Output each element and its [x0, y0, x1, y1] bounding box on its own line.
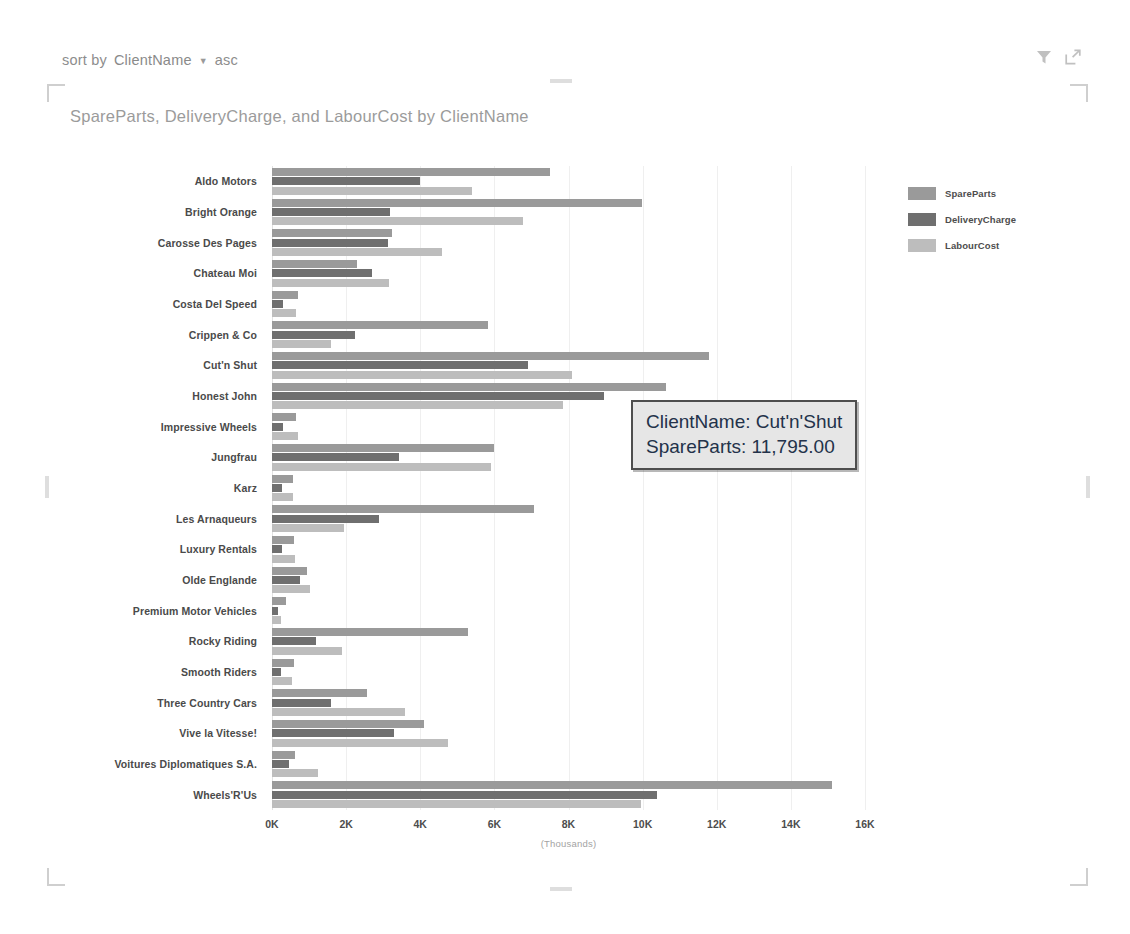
resize-handle-left[interactable]: [45, 476, 49, 498]
bar-spareparts[interactable]: [272, 628, 468, 636]
bar-spareparts[interactable]: [272, 413, 296, 421]
focus-mode-icon[interactable]: [1064, 48, 1082, 66]
frame-corner-bottom-left: [47, 868, 65, 886]
y-axis-category-label[interactable]: Honest John: [192, 390, 257, 402]
y-axis-category-label[interactable]: Jungfrau: [211, 451, 257, 463]
bar-labourcost[interactable]: [272, 493, 293, 501]
bar-spareparts[interactable]: [272, 199, 642, 207]
bar-deliverycharge[interactable]: [272, 239, 388, 247]
x-axis-labels: 0K2K4K6K8K10K12K14K16K: [272, 818, 865, 836]
bar-deliverycharge[interactable]: [272, 392, 604, 400]
bar-deliverycharge[interactable]: [272, 208, 390, 216]
resize-handle-bottom[interactable]: [550, 887, 572, 891]
y-axis-category-label[interactable]: Luxury Rentals: [180, 543, 257, 555]
bar-labourcost[interactable]: [272, 647, 342, 655]
bar-deliverycharge[interactable]: [272, 177, 420, 185]
bar-spareparts[interactable]: [272, 444, 494, 452]
bar-deliverycharge[interactable]: [272, 331, 355, 339]
bar-deliverycharge[interactable]: [272, 515, 379, 523]
bar-labourcost[interactable]: [272, 432, 298, 440]
bar-labourcost[interactable]: [272, 708, 405, 716]
bar-deliverycharge[interactable]: [272, 545, 282, 553]
y-axis-category-label[interactable]: Wheels'R'Us: [193, 789, 257, 801]
bar-labourcost[interactable]: [272, 309, 296, 317]
bar-deliverycharge[interactable]: [272, 269, 372, 277]
bar-deliverycharge[interactable]: [272, 791, 657, 799]
bar-deliverycharge[interactable]: [272, 760, 289, 768]
bar-labourcost[interactable]: [272, 616, 281, 624]
bar-labourcost[interactable]: [272, 248, 442, 256]
bar-labourcost[interactable]: [272, 677, 292, 685]
bar-spareparts[interactable]: [272, 659, 294, 667]
bar-deliverycharge[interactable]: [272, 699, 331, 707]
bar-deliverycharge[interactable]: [272, 576, 300, 584]
sort-by-field[interactable]: ClientName: [114, 52, 192, 68]
y-axis-category-label[interactable]: Chateau Moi: [193, 267, 257, 279]
resize-handle-right[interactable]: [1086, 476, 1090, 498]
bar-spareparts[interactable]: [272, 751, 295, 759]
bar-labourcost[interactable]: [272, 401, 563, 409]
bar-spareparts[interactable]: [272, 689, 367, 697]
bar-spareparts[interactable]: [272, 536, 294, 544]
bar-deliverycharge[interactable]: [272, 484, 282, 492]
y-axis-category-label[interactable]: Rocky Riding: [189, 635, 257, 647]
bar-labourcost[interactable]: [272, 739, 448, 747]
bar-labourcost[interactable]: [272, 187, 472, 195]
sort-by-bar[interactable]: sort by ClientName ▼ asc: [62, 52, 238, 68]
filter-icon[interactable]: [1035, 48, 1053, 66]
bar-deliverycharge[interactable]: [272, 668, 281, 676]
bar-spareparts[interactable]: [272, 720, 424, 728]
y-axis-category-label[interactable]: Smooth Riders: [181, 666, 257, 678]
bar-spareparts[interactable]: [272, 291, 298, 299]
bar-deliverycharge[interactable]: [272, 423, 283, 431]
y-axis-category-label[interactable]: Vive la Vitesse!: [179, 727, 257, 739]
y-axis-category-label[interactable]: Premium Motor Vehicles: [133, 605, 257, 617]
bar-deliverycharge[interactable]: [272, 607, 278, 615]
legend-item[interactable]: SpareParts: [908, 180, 1088, 206]
bar-labourcost[interactable]: [272, 217, 523, 225]
bar-deliverycharge[interactable]: [272, 453, 399, 461]
y-axis-category-label[interactable]: Three Country Cars: [157, 697, 257, 709]
bar-spareparts[interactable]: [272, 352, 709, 360]
y-axis-category-label[interactable]: Carosse Des Pages: [158, 237, 257, 249]
bar-spareparts[interactable]: [272, 567, 307, 575]
bar-deliverycharge[interactable]: [272, 300, 283, 308]
bar-spareparts[interactable]: [272, 321, 488, 329]
y-axis-category-label[interactable]: Aldo Motors: [195, 175, 257, 187]
bar-spareparts[interactable]: [272, 505, 534, 513]
sort-direction[interactable]: asc: [215, 52, 238, 68]
bar-labourcost[interactable]: [272, 463, 491, 471]
legend-item[interactable]: DeliveryCharge: [908, 206, 1088, 232]
bar-spareparts[interactable]: [272, 229, 392, 237]
y-axis-category-label[interactable]: Cut'n Shut: [203, 359, 257, 371]
y-axis-category-label[interactable]: Bright Orange: [185, 206, 257, 218]
legend-item[interactable]: LabourCost: [908, 232, 1088, 258]
bar-spareparts[interactable]: [272, 260, 357, 268]
bar-spareparts[interactable]: [272, 475, 293, 483]
bar-labourcost[interactable]: [272, 769, 318, 777]
bar-spareparts[interactable]: [272, 597, 286, 605]
bar-labourcost[interactable]: [272, 340, 331, 348]
y-axis-category-label[interactable]: Olde Englande: [182, 574, 257, 586]
resize-handle-top[interactable]: [550, 79, 572, 83]
bar-labourcost[interactable]: [272, 555, 295, 563]
bar-spareparts[interactable]: [272, 168, 550, 176]
bar-spareparts[interactable]: [272, 383, 666, 391]
y-axis-category-label[interactable]: Les Arnaqueurs: [176, 513, 257, 525]
bar-spareparts[interactable]: [272, 781, 832, 789]
bar-labourcost[interactable]: [272, 524, 344, 532]
bar-labourcost[interactable]: [272, 279, 389, 287]
y-axis-category-label[interactable]: Karz: [234, 482, 257, 494]
bar-deliverycharge[interactable]: [272, 729, 394, 737]
bar-deliverycharge[interactable]: [272, 637, 316, 645]
bar-labourcost[interactable]: [272, 800, 641, 808]
y-axis-category-label[interactable]: Voitures Diplomatiques S.A.: [114, 758, 257, 770]
y-axis-category-label[interactable]: Costa Del Speed: [173, 298, 257, 310]
bar-labourcost[interactable]: [272, 371, 572, 379]
bar-labourcost[interactable]: [272, 585, 310, 593]
y-axis-category-label[interactable]: Crippen & Co: [189, 329, 257, 341]
bar-deliverycharge[interactable]: [272, 361, 528, 369]
x-axis-tick-label: 0K: [265, 818, 278, 830]
y-axis-category-label[interactable]: Impressive Wheels: [161, 421, 257, 433]
chevron-down-icon[interactable]: ▼: [199, 57, 208, 66]
